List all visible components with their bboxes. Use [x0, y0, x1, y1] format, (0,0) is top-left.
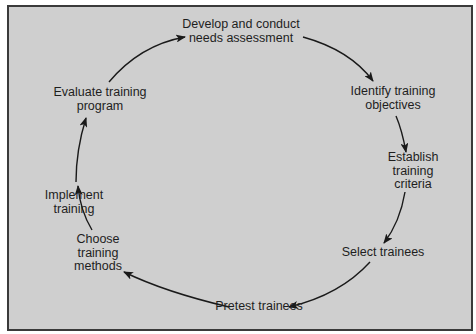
arrow-pretest-to-choose [124, 272, 229, 307]
step-label-line: Choose [74, 233, 122, 247]
step-label-line: training [45, 203, 103, 217]
arrow-identify-to-establish [396, 116, 406, 152]
step-identify-objectives: Identify training objectives [351, 85, 436, 112]
step-label-line: Identify training [351, 85, 436, 99]
arrow-evaluate-to-develop [109, 37, 185, 82]
step-label-line: Establish [388, 151, 439, 165]
arrow-implement-to-evaluate [76, 118, 86, 182]
step-label-line: objectives [351, 99, 436, 113]
step-pretest-trainees: Pretest trainees [215, 300, 303, 314]
step-select-trainees: Select trainees [342, 246, 425, 260]
step-label-line: Select trainees [342, 246, 425, 260]
arrow-develop-to-identify [303, 37, 373, 81]
step-choose-methods: Choose training methods [74, 233, 122, 274]
step-evaluate-program: Evaluate training program [53, 86, 146, 113]
step-label-line: Implement [45, 189, 103, 203]
step-implement-training: Implement training [45, 189, 103, 216]
step-label-line: methods [74, 260, 122, 274]
step-label-line: Pretest trainees [215, 300, 303, 314]
step-develop-needs-assessment: Develop and conduct needs assessment [182, 18, 299, 45]
arrow-establish-to-select [384, 192, 405, 243]
step-label-line: training [388, 165, 439, 179]
step-label-line: Evaluate training [53, 86, 146, 100]
step-label-line: training [74, 247, 122, 261]
step-label-line: Develop and conduct [182, 18, 299, 32]
step-establish-criteria: Establish training criteria [388, 151, 439, 192]
step-label-line: criteria [388, 178, 439, 192]
step-label-line: needs assessment [182, 32, 299, 46]
step-label-line: program [53, 100, 146, 114]
